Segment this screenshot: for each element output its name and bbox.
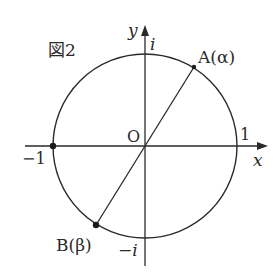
x-axis-label: x xyxy=(253,150,263,170)
x-axis-arrow-icon xyxy=(257,142,268,150)
pos-imag-label: i xyxy=(150,34,155,54)
point-neg-one xyxy=(50,143,56,149)
y-axis-arrow-icon xyxy=(141,25,149,36)
point-B xyxy=(93,222,99,228)
y-axis-label: y xyxy=(127,20,138,40)
complex-plane-diagram: 図2 y x O i −i 1 −1 A(α) B(β) xyxy=(0,0,279,276)
point-A-label: A(α) xyxy=(197,47,235,67)
point-B-label: B(β) xyxy=(56,235,92,255)
point-A xyxy=(192,65,196,69)
figure-caption: 図2 xyxy=(48,40,76,60)
origin-label: O xyxy=(127,127,140,146)
pos-real-label: 1 xyxy=(240,125,250,144)
neg-real-label: −1 xyxy=(22,149,46,168)
neg-imag-label: −i xyxy=(118,240,138,260)
